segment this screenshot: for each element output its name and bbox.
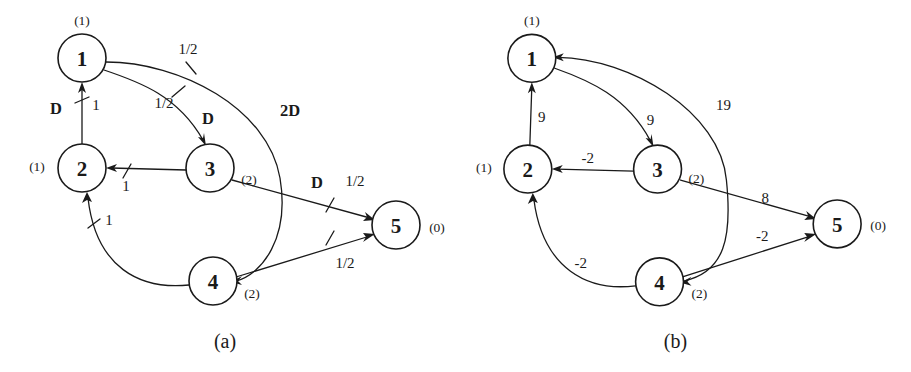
edge-label-a-1-2-1: 1	[92, 97, 100, 113]
node-a-1-circle[interactable]	[58, 34, 106, 82]
node-b-3-annotation: (2)	[689, 171, 705, 186]
node-b-3-circle[interactable]	[634, 145, 682, 193]
node-b-4-annotation: (2)	[692, 286, 708, 301]
edge-label-a-half-1-4: 1/2	[178, 41, 197, 57]
node-b-4[interactable]: 4 (2)	[636, 258, 708, 306]
node-a-3-circle[interactable]	[186, 144, 234, 192]
edge-3-to-5-tick	[326, 198, 334, 212]
edge-label-b-8-3-5: 8	[762, 190, 769, 206]
node-a-5-circle[interactable]	[372, 201, 420, 249]
node-b-1-circle[interactable]	[508, 34, 556, 82]
node-b-2-annotation: (1)	[476, 160, 492, 175]
edge-b-4-to-5-path	[683, 236, 812, 277]
node-a-3-annotation: (2)	[241, 172, 257, 187]
edge-label-b-9-2-1: 9	[538, 109, 545, 125]
edge-label-b-minus2-3-2: -2	[581, 150, 593, 166]
edge-label-a-half-1-3: 1/2	[154, 95, 173, 111]
edge-label-b-minus2-4-2: -2	[574, 255, 586, 271]
node-b-5-circle[interactable]	[813, 200, 861, 248]
edge-3-to-2-path	[111, 168, 186, 170]
node-a-2-circle[interactable]	[58, 144, 106, 192]
edge-label-a-2D-1-4: 2D	[280, 101, 300, 120]
edge-3-to-2	[106, 164, 186, 178]
edge-4-to-5-tick	[326, 231, 334, 245]
node-a-1[interactable]: 1 (1)	[58, 13, 106, 83]
edge-label-b-9-1-3: 9	[647, 112, 654, 128]
caption-b: (b)	[664, 330, 687, 353]
node-b-5[interactable]: 5 (0)	[813, 200, 886, 248]
edge-b-3-to-5-path	[681, 180, 812, 217]
edge-label-a-D-3-5: D	[311, 173, 323, 192]
node-a-4-annotation: (2)	[244, 286, 260, 301]
edge-label-a-half-4-5: 1/2	[335, 255, 354, 271]
node-b-1-annotation: (1)	[524, 13, 540, 28]
edge-label-b-minus2-4-5: -2	[756, 228, 768, 244]
edge-label-a-1-3-2: 1	[122, 178, 130, 194]
edge-label-a-D-1-3: D	[202, 109, 214, 128]
edge-4-to-2	[82, 192, 189, 286]
caption-a: (a)	[214, 330, 236, 353]
node-b-5-annotation: (0)	[870, 218, 886, 233]
node-b-2[interactable]: 2 (1)	[476, 145, 552, 193]
edge-b-2-to-1	[528, 82, 536, 145]
edge-b-3-to-2	[552, 165, 634, 173]
edge-label-a-D-2-1: D	[50, 99, 62, 118]
figure-two-graph-panels: 1 (1) 2 (1) 3 (2) 4 (2) 5 (0)	[0, 0, 911, 372]
edge-b-1-to-3-path	[555, 68, 651, 141]
node-b-2-circle[interactable]	[504, 145, 552, 193]
node-a-2[interactable]: 2 (1)	[29, 144, 106, 192]
edge-b-2-to-1-path	[530, 86, 532, 145]
edge-label-b-19-1-4: 19	[716, 97, 731, 113]
panel-b-weight-graph: 1 (1) 2 (1) 3 (2) 4 (2) 5 (0)	[455, 0, 910, 372]
node-a-2-annotation: (1)	[29, 159, 45, 174]
node-a-4-circle[interactable]	[189, 257, 237, 305]
panel-a-delay-graph: 1 (1) 2 (1) 3 (2) 4 (2) 5 (0)	[0, 0, 455, 372]
panel-a-canvas: 1 (1) 2 (1) 3 (2) 4 (2) 5 (0)	[0, 0, 455, 372]
edge-b-3-to-2-path	[557, 169, 634, 171]
edge-b-1-to-3	[555, 68, 654, 147]
edge-3-to-2-tick	[123, 164, 131, 178]
edge-label-a-1-4-2: 1	[105, 212, 113, 228]
edge-1-to-4-tick	[186, 62, 196, 74]
node-b-4-circle[interactable]	[636, 258, 684, 306]
node-a-3[interactable]: 3 (2)	[186, 144, 257, 192]
node-a-4[interactable]: 4 (2)	[189, 257, 260, 305]
panel-b-canvas: 1 (1) 2 (1) 3 (2) 4 (2) 5 (0)	[455, 0, 910, 372]
edge-b-3-to-5	[681, 180, 817, 220]
edge-2-to-1	[75, 82, 89, 144]
node-a-5[interactable]: 5 (0)	[372, 201, 445, 249]
node-a-1-annotation: (1)	[74, 13, 90, 28]
edge-b-4-to-5	[683, 233, 817, 277]
edge-b-4-to-2-path	[534, 199, 636, 287]
edge-4-to-2-path	[88, 198, 189, 286]
edge-label-a-half-3-5: 1/2	[345, 173, 364, 189]
edge-b-4-to-2	[528, 193, 636, 287]
edge-4-to-2-arrowhead	[82, 192, 92, 203]
node-a-5-annotation: (0)	[429, 220, 445, 235]
edge-b-4-to-2-arrowhead	[528, 193, 538, 204]
node-b-1[interactable]: 1 (1)	[508, 13, 556, 82]
node-b-3[interactable]: 3 (2)	[634, 145, 705, 193]
edge-1-to-3-tick	[172, 86, 185, 97]
